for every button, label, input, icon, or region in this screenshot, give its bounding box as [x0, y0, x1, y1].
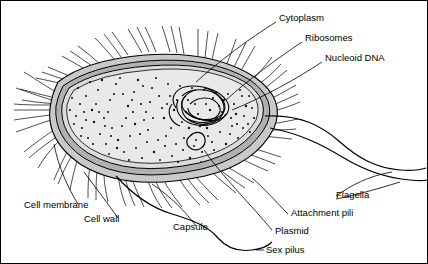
label-cytoplasm: Cytoplasm	[279, 13, 324, 23]
leader-cell-wall	[84, 172, 118, 218]
label-cell-wall: Cell wall	[84, 214, 119, 224]
label-sex-pilus: Sex pilus	[266, 245, 305, 255]
label-nucleoid-dna: Nucleoid DNA	[325, 53, 385, 63]
label-ribosomes: Ribosomes	[305, 33, 353, 43]
diagram-container: Cytoplasm Ribosomes Nucleoid DNA Flagell…	[0, 0, 428, 264]
label-cell-membrane: Cell membrane	[24, 200, 88, 210]
label-capsule: Capsule	[173, 222, 208, 232]
label-plasmid: Plasmid	[275, 226, 309, 236]
label-flagella: Flagella	[336, 190, 369, 200]
flagella-group	[265, 116, 427, 181]
prokaryotic-cell-diagram	[0, 0, 428, 264]
label-attachment-pili: Attachment pili	[291, 208, 353, 218]
leader-attachment-pili	[252, 178, 288, 214]
